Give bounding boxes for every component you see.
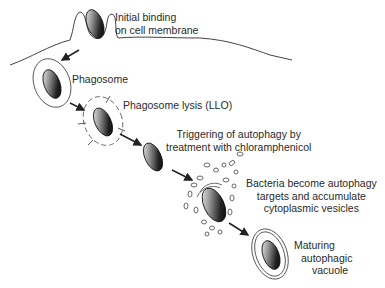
bacterium-vacuole bbox=[258, 238, 283, 272]
label-lysis: Phagosome lysis (LLO) bbox=[123, 99, 232, 112]
label-targets: Bacteria become autophagy targets and ac… bbox=[246, 177, 377, 215]
label-line: Phagosome lysis (LLO) bbox=[123, 99, 232, 112]
label-binding: Initial binding on cell membrane bbox=[115, 11, 198, 36]
arrow-1 bbox=[62, 50, 79, 60]
label-line: treatment with chloramphenicol bbox=[166, 141, 311, 154]
label-line: cytoplasmic vesicles bbox=[246, 202, 377, 215]
label-line: targets and accumulate bbox=[246, 190, 377, 203]
bacterium-lysis bbox=[89, 105, 116, 139]
label-phagosome: Phagosome bbox=[72, 73, 128, 86]
label-line: Phagosome bbox=[72, 73, 128, 86]
label-line: on cell membrane bbox=[115, 24, 198, 37]
arrow-3 bbox=[120, 134, 141, 145]
bacterium-phagosome bbox=[39, 67, 64, 101]
bacterium-free bbox=[139, 140, 166, 174]
arrow-4 bbox=[172, 170, 192, 180]
label-trigger: Triggering of autophagy by treatment wit… bbox=[166, 128, 311, 153]
label-line: autophagic bbox=[294, 252, 352, 265]
label-vacuole: Maturing autophagic vacuole bbox=[294, 239, 352, 277]
label-line: Initial binding bbox=[115, 11, 198, 24]
label-line: Triggering of autophagy by bbox=[166, 128, 311, 141]
label-line: vacuole bbox=[294, 264, 352, 277]
label-line: Maturing bbox=[294, 239, 352, 252]
arrow-2 bbox=[70, 103, 84, 110]
label-line: Bacteria become autophagy bbox=[246, 177, 377, 190]
arrow-5 bbox=[229, 223, 248, 235]
